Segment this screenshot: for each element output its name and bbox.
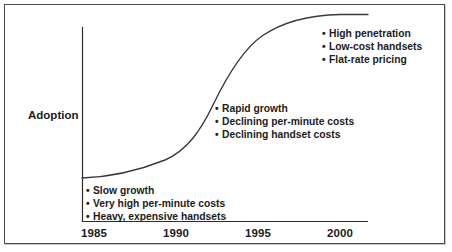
annotation-item: •Declining handset costs (215, 128, 354, 141)
x-tick-1990: 1990 (163, 227, 189, 239)
annotation-mature-stage: •High penetration •Low-cost handsets •Fl… (322, 27, 422, 67)
annotation-text: High penetration (329, 28, 411, 39)
annotation-text: Rapid growth (222, 103, 288, 114)
annotation-text: Heavy, expensive handsets (93, 211, 226, 222)
annotation-item: •Slow growth (86, 184, 226, 197)
bullet-icon: • (86, 197, 93, 210)
x-tick-1995: 1995 (245, 227, 271, 239)
annotation-text: Very high per-minute costs (93, 198, 225, 209)
x-tick-2000: 2000 (327, 227, 353, 239)
bullet-icon: • (86, 210, 93, 223)
bullet-icon: • (322, 53, 329, 66)
annotation-text: Declining handset costs (222, 129, 340, 140)
annotation-item: •Very high per-minute costs (86, 197, 226, 210)
annotation-text: Declining per-minute costs (222, 116, 354, 127)
annotation-text: Low-cost handsets (329, 41, 422, 52)
bullet-icon: • (322, 40, 329, 53)
annotation-item: •Declining per-minute costs (215, 115, 354, 128)
annotation-growth-stage: •Rapid growth •Declining per-minute cost… (215, 102, 354, 142)
y-axis-label: Adoption (28, 109, 78, 121)
annotation-item: •Rapid growth (215, 102, 354, 115)
bullet-icon: • (322, 27, 329, 40)
annotation-item: •High penetration (322, 27, 422, 40)
x-tick-1985: 1985 (81, 227, 107, 239)
annotation-item: •Low-cost handsets (322, 40, 422, 53)
adoption-s-curve-figure: Adoption 1985 1990 1995 2000 •High penet… (0, 0, 452, 252)
annotation-text: Flat-rate pricing (329, 54, 407, 65)
annotation-text: Slow growth (93, 185, 154, 196)
annotation-item: •Flat-rate pricing (322, 53, 422, 66)
bullet-icon: • (215, 115, 222, 128)
annotation-early-stage: •Slow growth •Very high per-minute costs… (86, 184, 226, 224)
annotation-item: •Heavy, expensive handsets (86, 210, 226, 223)
bullet-icon: • (86, 184, 93, 197)
bullet-icon: • (215, 128, 222, 141)
bullet-icon: • (215, 102, 222, 115)
